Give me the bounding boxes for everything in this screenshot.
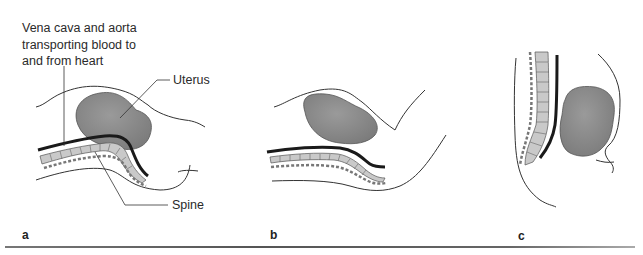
uterus-shape-b: [304, 94, 378, 144]
panel-label-a: a: [22, 228, 29, 242]
panel-c-illustration: [514, 52, 620, 207]
bottom-divider: [5, 246, 635, 248]
uterus-shape-c: [560, 86, 614, 156]
vessels-label-line1: Vena cava and aorta: [22, 20, 137, 37]
back-outline-a: [36, 165, 190, 190]
panel-b-illustration: [267, 89, 446, 190]
spine-vertebrae-b: [270, 153, 385, 182]
uterus-label: Uterus: [173, 72, 210, 89]
panel-label-c: c: [518, 229, 525, 243]
vessels-label: Vena cava and aorta transporting blood t…: [22, 20, 137, 70]
panel-label-b: b: [270, 228, 277, 242]
spine-leader-line: [95, 152, 168, 205]
vessels-label-line3: and from heart: [22, 53, 137, 70]
spine-label: Spine: [172, 197, 204, 214]
vessels-label-line2: transporting blood to: [22, 37, 137, 54]
uterus-shape-a: [76, 92, 151, 149]
